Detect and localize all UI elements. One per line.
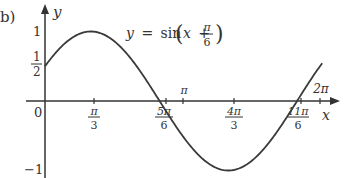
- y-tick-half-num: 1: [33, 50, 41, 64]
- svg-text:3: 3: [231, 119, 238, 132]
- svg-text:π: π: [202, 21, 211, 34]
- sine-graph: b) y x 0 1 1 2 −1 π 3 5π 6 π 4π 3 11π: [0, 0, 346, 178]
- y-tick-half-den: 2: [33, 65, 41, 79]
- part-label: b): [0, 8, 15, 26]
- origin-label: 0: [34, 105, 42, 120]
- svg-text:2π: 2π: [312, 82, 330, 96]
- svg-text:6: 6: [295, 119, 302, 132]
- svg-text:): ): [215, 21, 224, 46]
- x-tick-11pi-over-6: 11π 6: [287, 105, 309, 132]
- svg-text:6: 6: [161, 119, 168, 132]
- x-tick-2pi: 2π: [312, 82, 330, 96]
- x-tick-pi-over-3: π 3: [88, 105, 100, 132]
- x-axis-arrow-icon: [330, 97, 340, 105]
- y-axis-label: y: [52, 3, 62, 21]
- svg-text:6: 6: [204, 36, 211, 49]
- x-axis-label: x: [322, 107, 330, 123]
- svg-text:π: π: [89, 105, 98, 118]
- x-tick-pi: π: [179, 84, 188, 97]
- svg-text:4π: 4π: [226, 105, 242, 118]
- y-tick-neg1: −1: [24, 162, 43, 177]
- svg-text:y = sin: y = sin: [125, 25, 181, 41]
- y-tick-1: 1: [33, 24, 41, 39]
- svg-text:π: π: [179, 84, 188, 97]
- x-tick-4pi-over-3: 4π 3: [225, 105, 243, 132]
- equation-label: y = sin ( x + π 6 ): [125, 21, 224, 49]
- svg-text:3: 3: [91, 119, 98, 132]
- y-axis-arrow-icon: [41, 4, 49, 14]
